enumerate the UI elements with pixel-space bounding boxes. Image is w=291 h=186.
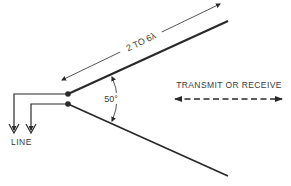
line-label: LINE [11,137,32,147]
lower-antenna-element [68,104,228,176]
feed-line-upper [14,94,68,130]
v-antenna-diagram: LINE 2 TO 6λ 50° TRANSMIT OR RECEIVE [0,0,291,186]
direction-label: TRANSMIT OR RECEIVE [176,80,282,90]
angle-label: 50° [104,94,118,104]
feed-line-lower [31,104,68,130]
